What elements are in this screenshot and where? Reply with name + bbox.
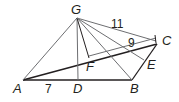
label-G: G [71,2,81,17]
tick-mark-C [155,35,156,43]
segment-GA [23,18,77,80]
label-F: F [86,59,95,74]
label-A: A [12,81,22,96]
label-B: B [130,81,139,96]
diagram-canvas: G A D B C E F 7 11 9 [0,0,179,102]
measure-GC: 11 [111,17,124,31]
geometry-diagram: G A D B C E F 7 11 9 [0,0,179,102]
label-C: C [162,33,172,48]
measure-AD: 7 [45,82,52,96]
label-E: E [147,57,156,72]
measure-FC: 9 [128,36,135,50]
label-D: D [73,81,82,96]
segment-GD [77,18,78,80]
